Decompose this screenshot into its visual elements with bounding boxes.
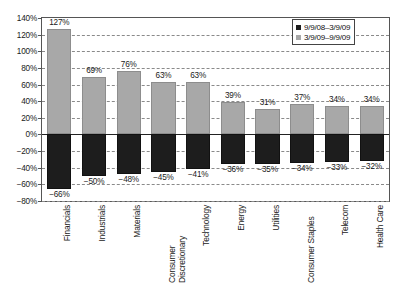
legend-label-series-1: 9/9/08–3/9/09 bbox=[304, 23, 350, 32]
gridline bbox=[42, 201, 389, 202]
bar-group: 63%−45% bbox=[151, 18, 175, 201]
y-axis-tick-label: 100% bbox=[0, 47, 37, 56]
bar-group: 37%−34% bbox=[290, 18, 314, 201]
bar-negative bbox=[47, 134, 71, 189]
bar-negative bbox=[82, 134, 106, 176]
x-axis-label-materials: Materials bbox=[133, 205, 143, 238]
bar-value-label-positive: 63% bbox=[177, 71, 219, 80]
legend-swatch-gray-icon bbox=[296, 35, 301, 40]
bar-negative bbox=[117, 134, 141, 174]
bar-value-label-positive: 34% bbox=[351, 95, 393, 104]
x-axis-label-financials: Financials bbox=[63, 205, 73, 241]
bar-positive bbox=[325, 106, 349, 134]
y-axis-labels: 140%120%100%80%60%40%20%0%−20%−40%−60%−8… bbox=[0, 17, 39, 202]
bar-negative bbox=[360, 134, 384, 161]
bar-negative bbox=[221, 134, 245, 164]
bar-value-label-negative: −66% bbox=[38, 190, 80, 199]
bar-positive bbox=[221, 102, 245, 134]
bar-group: 127%−66% bbox=[47, 18, 71, 201]
bar-negative bbox=[151, 134, 175, 171]
bar-group: 34%−33% bbox=[325, 18, 349, 201]
bar-positive bbox=[255, 109, 279, 135]
bar-positive bbox=[47, 29, 71, 135]
legend-item-series-1: 9/9/08–3/9/09 bbox=[296, 22, 350, 32]
bar-series-container: 127%−66%69%−50%76%−48%63%−45%63%−41%39%−… bbox=[42, 18, 389, 201]
legend-swatch-dark-icon bbox=[296, 25, 301, 30]
legend-item-series-2: 3/9/09–9/9/09 bbox=[296, 32, 350, 42]
x-axis-label-telecom: Telecom bbox=[341, 205, 351, 235]
chart-legend: 9/9/08–3/9/09 3/9/09–9/9/09 bbox=[292, 19, 355, 45]
bar-group: 69%−50% bbox=[82, 18, 106, 201]
x-axis-label-energy: Energy bbox=[237, 205, 247, 231]
y-axis-tick-label: −20% bbox=[0, 147, 37, 156]
bar-group: 39%−36% bbox=[221, 18, 245, 201]
legend-label-series-2: 3/9/09–9/9/09 bbox=[304, 33, 350, 42]
y-axis-tick-label: 120% bbox=[0, 30, 37, 39]
x-axis-label-industrials: Industrials bbox=[98, 205, 108, 242]
bar-group: 31%−35% bbox=[255, 18, 279, 201]
y-axis-tick-label: −60% bbox=[0, 180, 37, 189]
bar-group: 76%−48% bbox=[117, 18, 141, 201]
y-axis-tick-label: 0% bbox=[0, 130, 37, 139]
y-axis-tick-label: 20% bbox=[0, 113, 37, 122]
bar-positive bbox=[82, 77, 106, 134]
bar-value-label-negative: −32% bbox=[351, 162, 393, 171]
y-axis-tick-label: 80% bbox=[0, 63, 37, 72]
bar-group: 34%−32% bbox=[360, 18, 384, 201]
x-axis-label-utilities: Utilities bbox=[272, 205, 282, 231]
x-axis-label-health-care: Health Care bbox=[376, 205, 386, 248]
bar-negative bbox=[255, 134, 279, 163]
bar-group: 63%−41% bbox=[186, 18, 210, 201]
bar-positive bbox=[186, 82, 210, 134]
y-axis-tick-label: −80% bbox=[0, 197, 37, 206]
bar-negative bbox=[186, 134, 210, 168]
y-axis-tick-label: 140% bbox=[0, 14, 37, 23]
bar-value-label-positive: 127% bbox=[38, 18, 80, 27]
bar-positive bbox=[117, 71, 141, 134]
bar-value-label-positive: 76% bbox=[108, 60, 150, 69]
x-axis-label-technology: Technology bbox=[202, 205, 212, 246]
y-axis-tick-label: −40% bbox=[0, 163, 37, 172]
x-axis-category-labels: FinancialsIndustrialsMaterialsConsumer D… bbox=[42, 205, 389, 285]
y-axis-tick-label: 40% bbox=[0, 97, 37, 106]
bar-negative bbox=[290, 134, 314, 162]
bar-chart: 140%120%100%80%60%40%20%0%−20%−40%−60%−8… bbox=[0, 0, 403, 287]
bar-positive bbox=[151, 82, 175, 134]
x-axis-label-consumer-discretionary: Consumer Discretionary bbox=[168, 205, 187, 283]
bar-positive bbox=[290, 104, 314, 135]
bar-negative bbox=[325, 134, 349, 161]
bar-positive bbox=[360, 106, 384, 134]
x-axis-label-consumer-staples: Consumer Staples bbox=[307, 205, 317, 283]
y-axis-tick-label: 60% bbox=[0, 80, 37, 89]
